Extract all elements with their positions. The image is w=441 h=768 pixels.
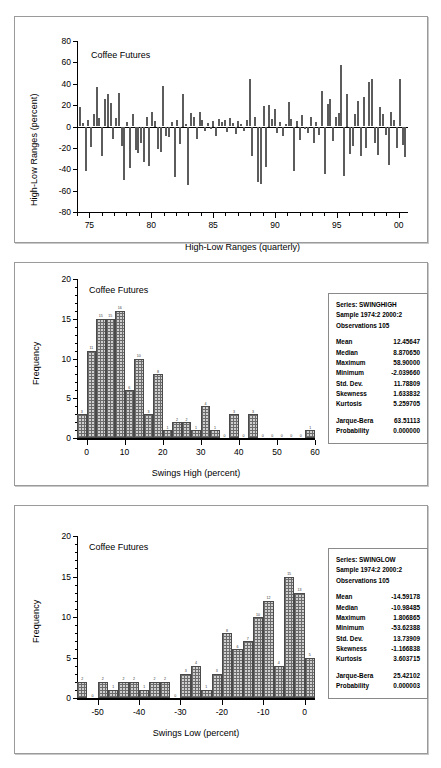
data-spike [190,113,192,127]
stat-value: -14.59178 [391,592,420,602]
data-spike [96,87,98,127]
histogram-bar [253,617,263,698]
data-spike [260,127,262,185]
data-spike [329,99,331,127]
histogram-bar [274,666,284,698]
data-spike [246,120,248,126]
stat-row: Median8.870650 [336,348,420,358]
data-spike [87,120,89,126]
y-tick-label: -20 [45,143,71,153]
y-tick-mark [73,577,77,578]
histogram-bar [149,682,159,698]
data-spike [140,127,142,143]
x-tick-mark [114,213,115,216]
data-spike [226,127,228,132]
data-spike [301,115,303,127]
stat-sample: Sample 1974:2 2000:2 [336,310,420,320]
data-spike [285,124,287,126]
data-spike [274,109,276,126]
stat-row: Skewness-1.166838 [336,644,420,654]
bar-value-label: 8 [153,370,163,374]
y-tick-mark [73,658,77,659]
y-tick-mark-minor [75,311,77,312]
data-spike [321,91,323,126]
y-tick-mark-minor [75,641,77,642]
x-tick-mark [374,213,375,216]
statistics-box: Series: SWINGHIGH Sample 1974:2 2000:2 O… [328,293,428,444]
histogram-bar [284,577,294,699]
data-spike [151,112,153,127]
x-tick-mark [337,213,338,218]
x-tick-label: -40 [125,707,153,717]
x-tick-mark [287,213,288,216]
stat-row: Probability0.000000 [336,426,420,436]
stat-key: Jarque-Bera [336,416,379,426]
data-spike [327,104,329,126]
data-spike [215,127,217,137]
x-tick-label: 80 [137,220,165,230]
data-spike [379,107,381,126]
data-spike [148,127,150,167]
y-tick-mark-minor [75,560,77,561]
bar-value-label: 11 [87,346,97,350]
y-tick-mark [73,191,77,192]
bar-value-label: 5 [305,653,315,657]
histogram-bar [210,430,220,438]
y-tick-mark [73,617,77,618]
bar-value-label: 0 [296,434,306,438]
stat-value: 8.870650 [393,348,420,358]
data-spike [101,127,103,157]
stat-value: 0.000000 [393,426,420,436]
data-spike [299,127,301,141]
stat-row: Maximum1.806865 [336,613,420,623]
data-spike [310,117,312,127]
y-tick-mark-minor [75,593,77,594]
histogram-bar [77,682,87,698]
data-spike [210,127,212,129]
y-tick-mark-minor [75,327,77,328]
stat-rows: Mean12.45647Median8.870650Maximum58.9000… [336,337,420,410]
x-tick-mark [87,440,88,445]
bar-value-label: 15 [106,314,116,318]
bar-value-label: 0 [239,434,249,438]
stat-key: Mean [336,337,358,347]
x-tick-mark [89,213,90,218]
data-spike [154,121,156,126]
x-tick-mark [324,213,325,216]
chart-annotation-title: Coffee Futures [89,542,148,552]
bar-value-label: 1 [139,685,149,689]
x-tick-label: 30 [187,447,215,457]
bar-value-label: 2 [160,677,170,681]
data-spike [365,127,367,148]
y-tick-mark-minor [75,382,77,383]
x-tick-mark [201,213,202,216]
stat-row: Std. Dev.13.73909 [336,634,420,644]
data-spike [313,127,315,143]
x-tick-mark [151,213,152,218]
x-tick-label: 00 [385,220,413,230]
data-spike [249,79,251,126]
data-spike [349,127,351,155]
bar-value-label: 13 [294,588,304,592]
data-spike [290,119,292,126]
y-tick-mark-minor [75,335,77,336]
stat-sample: Sample 1974:2 2000:2 [336,565,420,575]
y-tick-label: 0 [51,693,71,703]
x-tick-mark [139,700,140,705]
data-spike [304,127,306,129]
data-spike [263,106,265,126]
bar-value-label: 2 [149,677,159,681]
bar-value-label: 10 [253,613,263,617]
stat-row: Jarque-Bera25.42102 [336,671,420,681]
histogram-bar [201,406,211,438]
x-tick-mark [213,213,214,218]
data-spike [390,112,392,127]
y-tick-label: 40 [45,79,71,89]
y-tick-mark [73,127,77,128]
data-spike [318,127,320,136]
x-tick-mark [305,700,306,705]
bar-value-label: 3 [144,410,154,414]
x-tick-mark [399,213,400,218]
histogram-bar [98,682,108,698]
bar-value-label: 0 [170,694,180,698]
